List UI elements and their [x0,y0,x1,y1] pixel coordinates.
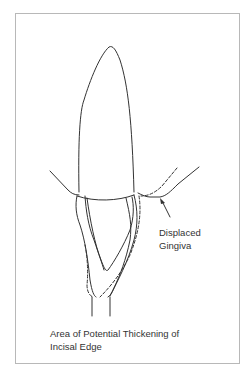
crown-outer-left [76,196,96,297]
gingiva-right [138,167,199,197]
pulp-inner [87,197,133,271]
gingiva-arrow-head-icon [160,198,165,204]
incisal-thickening-label: Area of Potential Thickening of Incisal … [50,327,179,353]
gingiva-left [50,171,79,195]
displaced-gingiva-label-line1: Displaced [159,226,201,239]
displaced-gingiva-dashed [141,168,177,196]
crown-outer-right [108,198,131,297]
thickening-dashed-right [100,196,140,297]
incisal-thickening-label-line1: Area of Potential Thickening of [50,327,179,340]
displaced-gingiva-label: Displaced Gingiva [159,226,201,252]
tooth-root [79,47,134,192]
tooth-diagram [0,0,250,377]
displaced-gingiva-label-line2: Gingiva [159,239,201,252]
incisal-thickening-label-line2: Incisal Edge [50,340,179,353]
